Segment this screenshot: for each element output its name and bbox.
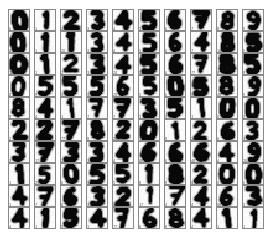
digit-cell: 1 [34, 53, 56, 75]
digit-image [139, 142, 159, 162]
digit-image [113, 98, 133, 118]
digit-image [139, 32, 159, 52]
digit-image [61, 164, 81, 184]
digit-cell: 9 [242, 31, 264, 53]
digit-image [217, 32, 237, 52]
digit-cell: 8 [216, 53, 238, 75]
digit-cell: 0 [242, 163, 264, 185]
digit-image [165, 32, 185, 52]
digit-cell: 1 [34, 9, 56, 31]
digit-cell: 0 [216, 97, 238, 119]
digit-cell: 0 [164, 75, 186, 97]
digit-cell: 66 [216, 185, 238, 207]
digit-cell: 9 [34, 75, 56, 97]
digit-image [87, 164, 107, 184]
digit-cell: 6 [216, 119, 238, 141]
digit-image [191, 98, 211, 118]
digit-image [61, 10, 81, 30]
digit-image [9, 142, 29, 162]
digit-image [35, 10, 55, 30]
digit-cell: 8 [216, 9, 238, 31]
digit-cell: 3 [86, 9, 108, 31]
digit-image [217, 98, 237, 118]
digit-image [165, 164, 185, 184]
digit-cell: 1 [216, 207, 238, 229]
digit-cell: 6 [138, 207, 160, 229]
digit-cell: 5 [86, 75, 108, 97]
digit-image [191, 10, 211, 30]
digit-image [113, 10, 133, 30]
digit-image [217, 186, 237, 206]
digit-image [9, 120, 29, 140]
digit-image [61, 32, 81, 52]
digit-cell: 6 [164, 9, 186, 31]
digit-cell: 20 [242, 141, 264, 163]
digit-cell: 3 [86, 185, 108, 207]
digit-image [217, 10, 237, 30]
digit-image [217, 120, 237, 140]
digit-image [139, 98, 159, 118]
digit-cell: 77 [112, 207, 134, 229]
digit-cell: 25 [112, 75, 134, 97]
digit-image [243, 120, 263, 140]
digit-cell: 6 [164, 141, 186, 163]
digit-cell: 0 [8, 9, 30, 31]
digit-cell: 8 [8, 97, 30, 119]
digit-cell: 4 [34, 97, 56, 119]
digit-image [243, 208, 263, 228]
digit-image [139, 186, 159, 206]
digit-image [35, 164, 55, 184]
digit-image [113, 32, 133, 52]
digit-image [35, 186, 55, 206]
digit-image [191, 186, 211, 206]
digit-image [87, 10, 107, 30]
digit-image [113, 120, 133, 140]
digit-image [191, 32, 211, 52]
digit-cell: 66 [138, 141, 160, 163]
digit-image [87, 54, 107, 74]
digit-image [243, 10, 263, 30]
digit-cell: 3 [86, 141, 108, 163]
digit-image [9, 98, 29, 118]
digit-cell: 5 [112, 163, 134, 185]
digit-image [35, 54, 55, 74]
digit-image [9, 32, 29, 52]
digit-image [243, 142, 263, 162]
digit-image [87, 186, 107, 206]
digit-cell: 77 [60, 119, 82, 141]
digit-image [35, 98, 55, 118]
digit-cell: 8 [138, 163, 160, 185]
digit-image [113, 186, 133, 206]
digit-cell: 8 [86, 119, 108, 141]
digit-image [165, 186, 185, 206]
digit-cell: 17 [138, 185, 160, 207]
digit-cell: 1 [8, 185, 30, 207]
digit-cell: 2 [242, 97, 264, 119]
digit-cell: 3 [86, 53, 108, 75]
digit-cell: 4 [112, 9, 134, 31]
digit-cell: 46 [216, 75, 238, 97]
digit-cell: 6 [164, 53, 186, 75]
digit-cell: 1 [190, 97, 212, 119]
digit-image [139, 76, 159, 96]
digit-cell: 10 [8, 53, 30, 75]
digit-cell: 1 [86, 207, 108, 229]
digit-image [113, 164, 133, 184]
digit-image [9, 76, 29, 96]
digit-cell: 1 [138, 119, 160, 141]
digit-image [87, 208, 107, 228]
digit-image [217, 142, 237, 162]
digit-image [61, 186, 81, 206]
digit-image [139, 120, 159, 140]
digit-image [165, 10, 185, 30]
digit-cell: 1 [34, 31, 56, 53]
digit-image [9, 186, 29, 206]
digit-cell: 3 [138, 97, 160, 119]
digit-cell: 4 [112, 141, 134, 163]
digit-image [165, 208, 185, 228]
digit-cell: 1 [8, 163, 30, 185]
digit-cell: 1 [60, 97, 82, 119]
digit-cell: 8 [164, 119, 186, 141]
digit-cell: 3 [242, 185, 264, 207]
digit-image [35, 120, 55, 140]
